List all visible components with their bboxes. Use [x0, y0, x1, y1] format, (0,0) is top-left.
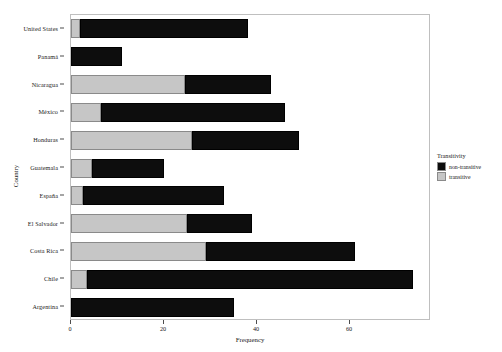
bar-row	[71, 214, 431, 233]
bars-layer	[71, 15, 429, 319]
bar-segment-transitive	[71, 214, 187, 233]
x-tick-mark	[163, 320, 164, 324]
bar-segment-transitive	[71, 270, 87, 289]
bar-row	[71, 159, 431, 178]
y-tick-label: Chile	[44, 275, 58, 282]
plot-panel	[70, 14, 430, 320]
y-tick-label: México	[38, 108, 58, 115]
bar-row	[71, 186, 431, 205]
legend-entry[interactable]: non-transitive	[437, 162, 499, 171]
legend-swatch-icon	[437, 172, 446, 181]
y-tick-label: El Salvador	[28, 219, 58, 226]
legend-title: Transitivity	[437, 152, 499, 159]
bar-row	[71, 75, 431, 94]
legend-label: transitive	[449, 174, 471, 180]
legend-label: non-transitive	[449, 164, 481, 170]
y-tick-mark	[60, 55, 64, 56]
y-tick-label: Panamá	[38, 52, 58, 59]
y-tick-label: España	[40, 191, 58, 198]
bar-row	[71, 19, 431, 38]
y-tick-mark	[60, 111, 64, 112]
y-tick-mark	[60, 278, 64, 279]
bar-row	[71, 270, 431, 289]
bar-segment-transitive	[71, 19, 80, 38]
x-axis-title: Frequency	[70, 336, 430, 343]
y-tick-label: Costa Rica	[30, 247, 58, 254]
bar-segment-transitive	[71, 75, 185, 94]
y-tick-mark	[60, 83, 64, 84]
x-tick-label: 60	[346, 325, 352, 332]
bar-segment-non-transitive	[71, 298, 234, 317]
bar-segment-transitive	[71, 103, 101, 122]
y-tick-mark	[60, 194, 64, 195]
x-tick-label: 20	[160, 325, 166, 332]
x-tick-label: 0	[68, 325, 71, 332]
bar-segment-transitive	[71, 131, 192, 150]
bar-segment-non-transitive	[87, 270, 413, 289]
y-tick-mark	[60, 306, 64, 307]
bar-row	[71, 131, 431, 150]
bar-segment-non-transitive	[83, 186, 225, 205]
y-tick-mark	[60, 222, 64, 223]
bar-segment-non-transitive	[187, 214, 252, 233]
legend-swatch-icon	[437, 162, 446, 171]
bar-segment-transitive	[71, 159, 92, 178]
y-axis: United StatesPanamáNicaraguaMéxicoHondur…	[0, 14, 66, 320]
bar-segment-non-transitive	[192, 131, 299, 150]
y-tick-label: Nicaragua	[32, 80, 58, 87]
legend: Transitivity non-transitivetransitive	[437, 152, 499, 182]
bar-segment-non-transitive	[206, 242, 355, 261]
bar-segment-non-transitive	[71, 47, 122, 66]
y-tick-label: Guatemala	[30, 164, 58, 171]
x-tick-label: 40	[253, 325, 259, 332]
y-tick-label: United States	[24, 24, 58, 31]
bar-row	[71, 103, 431, 122]
chart-container: Country United StatesPanamáNicaraguaMéxi…	[0, 0, 502, 352]
y-tick-label: Honduras	[33, 136, 58, 143]
bar-segment-transitive	[71, 186, 83, 205]
bar-segment-non-transitive	[101, 103, 285, 122]
x-tick-mark	[256, 320, 257, 324]
legend-entry[interactable]: transitive	[437, 172, 499, 181]
bar-row	[71, 47, 431, 66]
y-tick-mark	[60, 167, 64, 168]
bar-segment-non-transitive	[80, 19, 247, 38]
y-tick-mark	[60, 250, 64, 251]
y-tick-mark	[60, 27, 64, 28]
bar-segment-transitive	[71, 242, 206, 261]
y-tick-label: Argentina	[32, 303, 58, 310]
bar-segment-non-transitive	[185, 75, 271, 94]
legend-entries: non-transitivetransitive	[437, 162, 499, 181]
bar-row	[71, 298, 431, 317]
x-tick-mark	[349, 320, 350, 324]
x-tick-mark	[70, 320, 71, 324]
bar-row	[71, 242, 431, 261]
bar-segment-non-transitive	[92, 159, 164, 178]
y-tick-mark	[60, 139, 64, 140]
